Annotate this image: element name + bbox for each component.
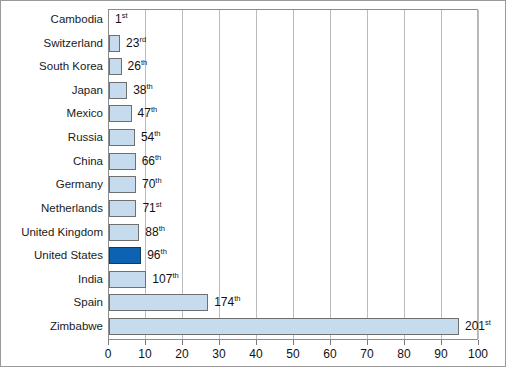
category-label-cambodia: Cambodia <box>1 13 103 25</box>
xtick-label-10: 10 <box>138 347 151 361</box>
xtick-label-30: 30 <box>212 347 225 361</box>
xtick-50 <box>293 340 294 345</box>
value-label-mexico: 47th <box>138 106 158 120</box>
value-label-cambodia: 1st <box>115 12 128 26</box>
category-label-south-korea: South Korea <box>1 60 103 72</box>
value-axis: 0102030405060708090100 <box>108 340 479 366</box>
value-label-china: 66th <box>142 154 162 168</box>
value-label-spain: 174th <box>214 295 240 309</box>
xtick-20 <box>182 340 183 345</box>
xtick-70 <box>367 340 368 345</box>
category-label-russia: Russia <box>1 131 103 143</box>
value-label-japan: 38th <box>133 83 153 97</box>
xtick-label-20: 20 <box>175 347 188 361</box>
bar-germany <box>109 176 136 193</box>
bar-india <box>109 271 146 288</box>
category-label-china: China <box>1 155 103 167</box>
xtick-100 <box>478 340 479 345</box>
bar-south-korea <box>109 58 122 75</box>
bar-russia <box>109 129 135 146</box>
xtick-40 <box>256 340 257 345</box>
xtick-10 <box>145 340 146 345</box>
category-label-spain: Spain <box>1 296 103 308</box>
value-label-switzerland: 23rd <box>126 36 146 50</box>
xtick-80 <box>404 340 405 345</box>
category-label-india: India <box>1 273 103 285</box>
xtick-90 <box>441 340 442 345</box>
xtick-label-60: 60 <box>323 347 336 361</box>
category-label-mexico: Mexico <box>1 107 103 119</box>
bar-series: 1st23rd26th38th47th54th66th70th71st88th9… <box>109 9 478 340</box>
category-label-united-kingdom: United Kingdom <box>1 226 103 238</box>
xtick-label-0: 0 <box>105 347 112 361</box>
bar-china <box>109 153 136 170</box>
value-label-south-korea: 26th <box>128 59 148 73</box>
xtick-30 <box>219 340 220 345</box>
bar-united-kingdom <box>109 224 139 241</box>
category-label-japan: Japan <box>1 84 103 96</box>
xtick-60 <box>330 340 331 345</box>
xtick-label-90: 90 <box>434 347 447 361</box>
gridline-100 <box>478 10 479 339</box>
bar-zimbabwe <box>109 318 459 335</box>
xtick-0 <box>108 340 109 345</box>
bar-united-states <box>109 247 141 264</box>
category-axis: CambodiaSwitzerlandSouth KoreaJapanMexic… <box>1 9 103 340</box>
category-label-germany: Germany <box>1 178 103 190</box>
bar-mexico <box>109 105 132 122</box>
xtick-label-100: 100 <box>468 347 488 361</box>
xtick-label-50: 50 <box>286 347 299 361</box>
value-label-united-states: 96th <box>147 248 167 262</box>
value-label-india: 107th <box>152 272 178 286</box>
value-label-russia: 54th <box>141 130 161 144</box>
chart-figure: CambodiaSwitzerlandSouth KoreaJapanMexic… <box>0 0 506 367</box>
value-label-zimbabwe: 201st <box>465 319 491 333</box>
value-label-netherlands: 71st <box>142 201 161 215</box>
category-label-netherlands: Netherlands <box>1 202 103 214</box>
bar-netherlands <box>109 200 136 217</box>
bar-japan <box>109 82 127 99</box>
bar-spain <box>109 294 208 311</box>
value-label-united-kingdom: 88th <box>145 225 165 239</box>
xtick-label-70: 70 <box>360 347 373 361</box>
category-label-zimbabwe: Zimbabwe <box>1 320 103 332</box>
value-label-germany: 70th <box>142 177 162 191</box>
category-label-switzerland: Switzerland <box>1 37 103 49</box>
category-label-united-states: United States <box>1 249 103 261</box>
xtick-label-40: 40 <box>249 347 262 361</box>
bar-switzerland <box>109 35 120 52</box>
xtick-label-80: 80 <box>397 347 410 361</box>
